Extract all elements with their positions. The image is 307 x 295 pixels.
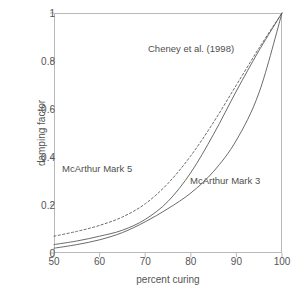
y-tick-label: 0 bbox=[49, 248, 55, 259]
series-label-mcarthur-mark-3: McArthur Mark 3 bbox=[190, 175, 260, 186]
chart-figure: 5060708090100 00.20.40.60.81 percent cur… bbox=[0, 0, 307, 295]
x-tick-label: 60 bbox=[94, 256, 105, 267]
x-tick-label: 80 bbox=[185, 256, 196, 267]
x-tick-label: 100 bbox=[274, 256, 291, 267]
y-tick-label: 1 bbox=[49, 8, 55, 19]
y-tick-label: 0.2 bbox=[41, 200, 55, 211]
x-tick-label: 70 bbox=[140, 256, 151, 267]
series-label-mcarthur-mark-5: McArthur Mark 5 bbox=[62, 163, 132, 174]
x-tick-label: 90 bbox=[231, 256, 242, 267]
y-axis-title: damping factor bbox=[36, 100, 47, 166]
series-label-cheney: Cheney et al. (1998) bbox=[148, 43, 234, 54]
x-axis-title: percent curing bbox=[136, 274, 199, 285]
y-tick-label: 0.8 bbox=[41, 56, 55, 67]
